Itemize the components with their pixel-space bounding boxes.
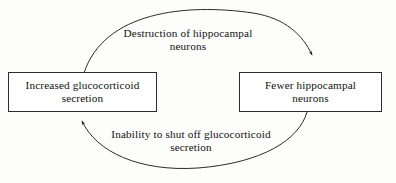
cycle-diagram: Increased glucocorticoid secretion Fewer… <box>0 0 396 183</box>
node-increased-glucocorticoid-secretion: Increased glucocorticoid secretion <box>8 72 157 112</box>
edge-label-destruction-of-hippocampal-neurons: Destruction of hippocampal neurons <box>88 27 288 53</box>
node-fewer-hippocampal-neurons: Fewer hippocampal neurons <box>239 72 382 112</box>
node-left-label: Increased glucocorticoid secretion <box>21 79 145 105</box>
edge-label-inability-to-shut-off-glucocorticoid-secretion: Inability to shut off glucocorticoid sec… <box>78 128 304 154</box>
node-right-label: Fewer hippocampal neurons <box>260 79 361 105</box>
